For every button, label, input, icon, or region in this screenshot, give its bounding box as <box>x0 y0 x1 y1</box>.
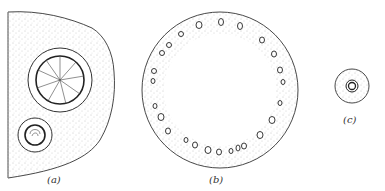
figure-canvas <box>0 0 385 191</box>
panel-c-label: (c) <box>343 114 356 125</box>
panel-b <box>142 12 298 168</box>
panel-a-label: (a) <box>47 174 61 185</box>
panel-c <box>335 69 369 103</box>
panel-a <box>8 12 114 178</box>
panel-b-label: (b) <box>209 174 223 185</box>
